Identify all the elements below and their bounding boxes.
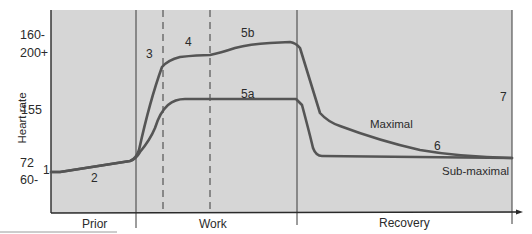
stage-label-7: 7 (500, 91, 507, 103)
heart-rate-chart (0, 0, 532, 234)
stage-label-1: 1 (43, 164, 50, 176)
phase-label-prior: Prior (82, 218, 107, 230)
ytick-160: 160- (20, 29, 45, 41)
ytick-200: 200+ (20, 47, 48, 59)
plot-area (51, 10, 512, 213)
y-axis-label: Heart rate (16, 92, 28, 143)
phase-label-recovery: Recovery (379, 217, 430, 229)
ytick-60: 60- (20, 174, 38, 186)
stage-label-4: 4 (185, 36, 192, 48)
x-axis-arrow-icon (516, 210, 523, 215)
stage-label-3: 3 (146, 48, 153, 60)
submaximal-label: Sub-maximal (442, 165, 509, 177)
phase-label-work: Work (199, 218, 227, 230)
ytick-155: 155 (21, 104, 42, 116)
stage-label-5b: 5b (241, 27, 254, 39)
stage-label-2: 2 (91, 172, 98, 184)
x-axis (51, 212, 518, 213)
stage-label-5a: 5a (241, 88, 254, 100)
stage-label-6: 6 (434, 140, 441, 152)
ytick-72: 72 (20, 157, 34, 169)
maximal-label: Maximal (370, 118, 413, 130)
